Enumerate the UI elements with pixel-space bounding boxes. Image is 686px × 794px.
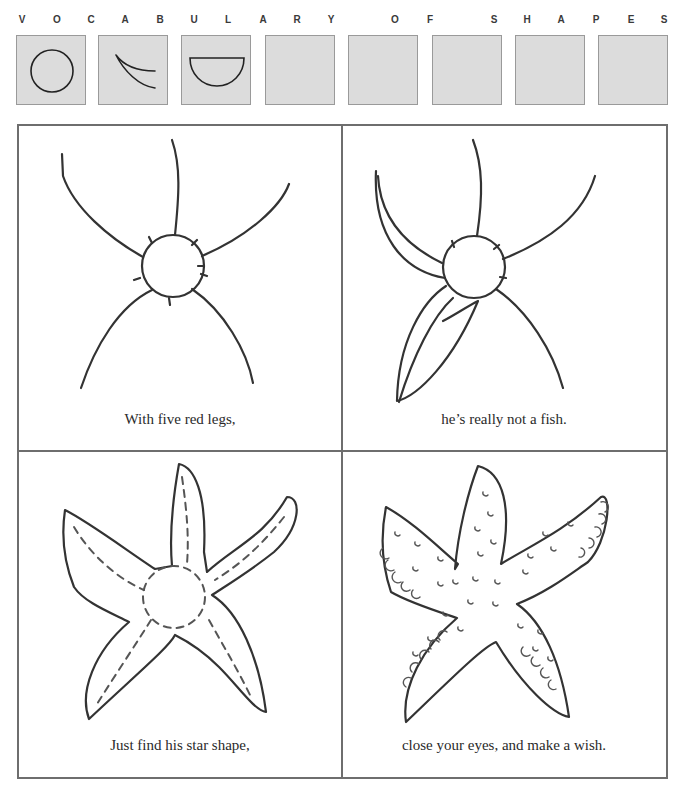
step-panel-1: With five red legs, <box>19 126 341 450</box>
title-letter: F <box>422 14 438 25</box>
starfish-step-2-drawing <box>343 126 665 450</box>
circle-shape-icon <box>17 36 87 106</box>
title-letter: P <box>588 14 604 25</box>
title-letter: O <box>387 14 403 25</box>
step-panel-2: he’s really not a fish. <box>343 126 665 450</box>
title-letter: A <box>553 14 569 25</box>
title-letter: Y <box>323 14 339 25</box>
step-panel-4: close your eyes, and make a wish. <box>343 452 665 776</box>
title-letter: O <box>49 14 65 25</box>
step-caption: close your eyes, and make a wish. <box>343 737 665 754</box>
title-letter: L <box>220 14 236 25</box>
starfish-step-1-drawing <box>19 126 341 450</box>
step-caption: he’s really not a fish. <box>343 411 665 428</box>
half-circle-shape-icon <box>182 36 252 106</box>
vocabulary-box-empty <box>265 35 335 105</box>
step-caption: With five red legs, <box>19 411 341 428</box>
vocabulary-box-empty <box>432 35 502 105</box>
title-letter: A <box>255 14 271 25</box>
drawing-steps-grid: With five red legs, he’s really not a fi… <box>17 124 668 779</box>
starfish-step-4-drawing <box>343 452 665 776</box>
title-letter: R <box>289 14 305 25</box>
title-letter: H <box>519 14 535 25</box>
title-letter: S <box>656 14 672 25</box>
step-panel-3: Just find his star shape, <box>19 452 341 776</box>
title-letter: U <box>186 14 202 25</box>
starfish-step-3-drawing <box>19 452 341 776</box>
vocabulary-box-crescent-arc <box>98 35 168 105</box>
title-letter: E <box>623 14 639 25</box>
title-letter: V <box>14 14 30 25</box>
title-letter: B <box>152 14 168 25</box>
title-letter: A <box>117 14 133 25</box>
title-letter: C <box>83 14 99 25</box>
vocabulary-box-circle <box>16 35 86 105</box>
crescent-arc-shape-icon <box>99 36 169 106</box>
vocabulary-box-empty <box>598 35 668 105</box>
vocabulary-box-half-circle <box>181 35 251 105</box>
title-letter: S <box>486 14 502 25</box>
step-caption: Just find his star shape, <box>19 737 341 754</box>
vocabulary-box-empty <box>515 35 585 105</box>
vocabulary-box-empty <box>348 35 418 105</box>
